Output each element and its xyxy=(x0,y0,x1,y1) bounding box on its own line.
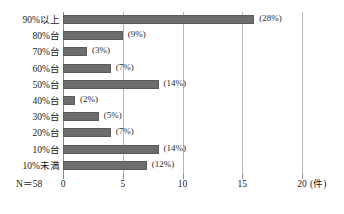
bar-row: (14%) xyxy=(63,77,302,93)
bar xyxy=(63,31,123,40)
bar xyxy=(63,64,111,73)
x-axis-tick-labels: 05101520(件) xyxy=(0,178,344,194)
bar-row: (14%) xyxy=(63,142,302,158)
bar-value-label: (14%) xyxy=(164,141,187,155)
y-axis-category-labels: 90%以上80%台70%台60%台50%台40%台30%台20%台10%台10%… xyxy=(0,12,60,174)
category-label: 70%台 xyxy=(2,44,60,60)
x-tick-label-10: 10 xyxy=(178,178,188,190)
category-label: 10%台 xyxy=(2,142,60,158)
bar-value-label: (28%) xyxy=(259,11,282,25)
bar-row: (9%) xyxy=(63,28,302,44)
bar-value-label: (9%) xyxy=(128,27,146,41)
bar-row: (2%) xyxy=(63,93,302,109)
bar-row: (7%) xyxy=(63,61,302,77)
bar xyxy=(63,96,75,105)
category-label: 20%台 xyxy=(2,125,60,141)
x-tick-label-15: 15 xyxy=(238,178,248,190)
bar-row: (5%) xyxy=(63,109,302,125)
category-label: 60%台 xyxy=(2,61,60,77)
bar xyxy=(63,15,254,24)
bar-value-label: (14%) xyxy=(164,76,187,90)
bar xyxy=(63,128,111,137)
chart-container: 90%以上80%台70%台60%台50%台40%台30%台20%台10%台10%… xyxy=(0,0,344,214)
bar-value-label: (7%) xyxy=(116,124,134,138)
category-label: 50%台 xyxy=(2,77,60,93)
bar-value-label: (2%) xyxy=(80,92,98,106)
bar-row: (7%) xyxy=(63,125,302,141)
x-tick-label-20: 20 xyxy=(297,178,307,190)
bar-row: (12%) xyxy=(63,158,302,174)
x-tick-label-0: 0 xyxy=(61,178,66,190)
category-label: 30%台 xyxy=(2,109,60,125)
category-label: 10%未満 xyxy=(2,158,60,174)
bar-value-label: (5%) xyxy=(104,108,122,122)
bar xyxy=(63,112,99,121)
gridline-20 xyxy=(302,12,303,174)
category-label: 40%台 xyxy=(2,93,60,109)
x-axis-unit-label: (件) xyxy=(310,178,326,190)
bar-row: (28%) xyxy=(63,12,302,28)
bar-value-label: (7%) xyxy=(116,60,134,74)
bar xyxy=(63,161,147,170)
category-label: 80%台 xyxy=(2,28,60,44)
category-label: 90%以上 xyxy=(2,12,60,28)
bar-value-label: (12%) xyxy=(152,157,175,171)
bar-value-label: (3%) xyxy=(92,43,110,57)
sample-size-label: N＝58 xyxy=(16,178,42,190)
bar xyxy=(63,145,159,154)
bar xyxy=(63,47,87,56)
bar-row: (3%) xyxy=(63,44,302,60)
plot-area: (28%)(9%)(3%)(7%)(14%)(2%)(5%)(7%)(14%)(… xyxy=(63,12,302,174)
bar xyxy=(63,80,159,89)
x-tick-label-5: 5 xyxy=(120,178,125,190)
